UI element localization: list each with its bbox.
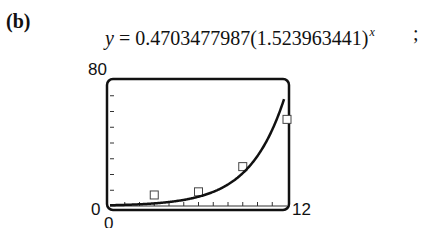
data-point-marker bbox=[150, 191, 158, 199]
x-max-label: 12 bbox=[292, 200, 311, 219]
y-min-label: 0 bbox=[91, 200, 100, 219]
data-point-marker bbox=[283, 115, 291, 123]
data-point-marker bbox=[195, 188, 203, 196]
x-min-label: 0 bbox=[104, 214, 113, 228]
y-max-label: 80 bbox=[88, 60, 107, 79]
calculator-graph: 80 0 0 12 bbox=[0, 0, 428, 228]
data-points bbox=[150, 115, 291, 199]
